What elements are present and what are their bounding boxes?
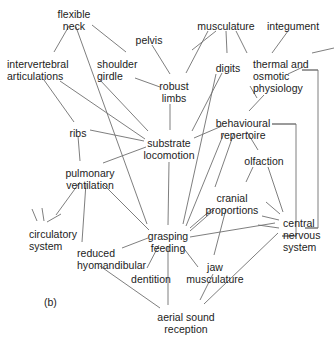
node-dentition: dentition	[131, 273, 171, 285]
node-aerial-sound-reception: aerial sound reception	[157, 311, 214, 335]
node-musculature-top: musculature	[197, 20, 254, 32]
node-cranial-proportions: cranial proportions	[206, 192, 259, 216]
node-grasping-feeding: grasping feeding	[148, 230, 188, 254]
diagram-panel-b: flexible neckpelvismusculatureintegument…	[0, 0, 336, 351]
node-ribs: ribs	[70, 127, 87, 139]
node-behavioural-repertoire: behavioural repertoire	[216, 117, 271, 141]
node-flexible-neck: flexible neck	[58, 8, 91, 32]
node-central-nervous-system: central nervous system	[283, 217, 321, 254]
node-reduced-hyomandibular: reduced hyomandibular	[77, 247, 146, 271]
node-jaw-musculature: jaw musculature	[186, 261, 243, 285]
node-intervertebral-articulations: intervertebral articulations	[7, 58, 69, 82]
node-pelvis: pelvis	[136, 34, 163, 46]
node-substrate-locomotion: substrate locomotion	[144, 137, 195, 161]
panel-label: (b)	[44, 296, 57, 308]
node-robust-limbs: robust limbs	[159, 80, 188, 104]
node-digits: digits	[216, 62, 241, 74]
node-thermal-osmotic-physiology: thermal and osmotic physiology	[253, 58, 309, 95]
node-circulatory-system: circulatory system	[29, 228, 77, 252]
node-integument: integument	[267, 20, 319, 32]
node-olfaction: olfaction	[244, 155, 283, 167]
node-pulmonary-ventilation: pulmonary ventilation	[65, 167, 114, 191]
node-shoulder-girdle: shoulder girdle	[97, 58, 137, 82]
